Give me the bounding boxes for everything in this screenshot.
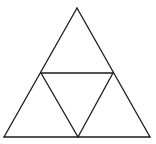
triangle-segments [4, 8, 150, 137]
inner-left-edge [41, 73, 78, 137]
inner-right-edge [78, 73, 113, 137]
subdivided-triangle-diagram [0, 0, 156, 144]
